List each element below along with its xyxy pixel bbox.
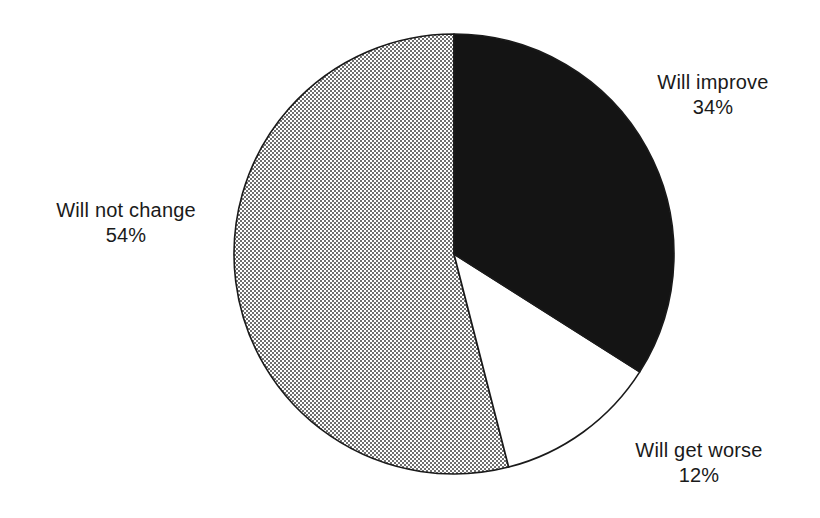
- pie-chart-figure: Will improve 34% Will not change 54% Wil…: [0, 0, 820, 518]
- pie-label-will-get-worse-value: 12%: [619, 463, 779, 488]
- pie-label-will-get-worse: Will get worse 12%: [619, 438, 779, 488]
- pie-label-will-improve-value: 34%: [645, 95, 781, 120]
- pie-label-will-not-change-name: Will not change: [42, 198, 210, 223]
- pie-label-will-not-change: Will not change 54%: [42, 198, 210, 248]
- pie-label-will-improve-name: Will improve: [645, 70, 781, 95]
- pie-label-will-not-change-value: 54%: [42, 223, 210, 248]
- pie-label-will-get-worse-name: Will get worse: [619, 438, 779, 463]
- pie-label-will-improve: Will improve 34%: [645, 70, 781, 120]
